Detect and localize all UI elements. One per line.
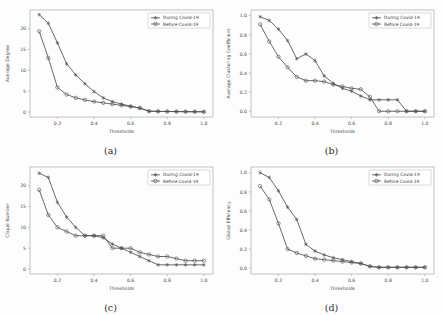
svg-text:0.6: 0.6 [240,209,247,214]
svg-text:15: 15 [20,204,26,209]
subplot-caption-c: (c) [0,302,221,313]
svg-text:Before Covid-19: Before Covid-19 [163,22,198,27]
svg-text:1.0: 1.0 [240,13,247,18]
subplot-caption-b: (b) [221,145,442,156]
svg-text:0.6: 0.6 [127,121,134,126]
svg-text:15: 15 [20,47,26,52]
subplot-caption-a: (a) [0,145,221,156]
svg-text:1.0: 1.0 [240,170,247,175]
plot-b: 0.20.40.60.81.00.00.20.40.60.81.0Thresho… [221,0,442,143]
svg-text:0.0: 0.0 [240,266,247,271]
svg-text:0.4: 0.4 [90,278,97,283]
svg-text:0.2: 0.2 [54,121,61,126]
svg-text:Thresholds: Thresholds [329,129,356,134]
svg-text:Before Covid-19: Before Covid-19 [384,22,419,27]
svg-text:Global Efficiency: Global Efficiency [226,201,231,240]
svg-text:0.6: 0.6 [240,52,247,57]
svg-text:Before Covid-19: Before Covid-19 [163,179,198,184]
svg-text:0.4: 0.4 [311,121,318,126]
svg-text:Thresholds: Thresholds [329,286,356,291]
plot-a: 0.20.40.60.81.005101520ThresholdsAverage… [0,0,221,143]
svg-text:During Covid-19: During Covid-19 [384,172,420,177]
svg-text:0.8: 0.8 [164,121,171,126]
svg-text:0.8: 0.8 [164,278,171,283]
plot-c: 0.20.40.60.81.005101520ThresholdsClique … [0,157,221,300]
svg-text:Clique Number: Clique Number [5,203,10,237]
subplot-caption-d: (d) [221,302,442,313]
svg-text:1.0: 1.0 [200,121,207,126]
figure-panel-grid: 0.20.40.60.81.005101520ThresholdsAverage… [0,0,443,315]
svg-text:0.0: 0.0 [240,109,247,114]
svg-text:10: 10 [20,225,26,230]
svg-text:5: 5 [23,246,26,251]
svg-text:0.4: 0.4 [311,278,318,283]
svg-text:Thresholds: Thresholds [108,286,135,291]
svg-text:0: 0 [23,110,26,115]
svg-text:0.8: 0.8 [240,33,247,38]
svg-text:0.6: 0.6 [348,278,355,283]
svg-text:Thresholds: Thresholds [108,129,135,134]
svg-text:5: 5 [23,89,26,94]
svg-text:Before Covid-19: Before Covid-19 [384,179,419,184]
svg-text:0.2: 0.2 [240,90,247,95]
svg-text:10: 10 [20,68,26,73]
svg-text:0.8: 0.8 [385,278,392,283]
svg-text:20: 20 [20,183,26,188]
svg-text:1.0: 1.0 [421,121,428,126]
svg-text:0.4: 0.4 [240,228,247,233]
panel-d: 0.20.40.60.81.00.00.20.40.60.81.0Thresho… [221,157,442,314]
svg-text:1.0: 1.0 [421,278,428,283]
panel-a: 0.20.40.60.81.005101520ThresholdsAverage… [0,0,221,157]
svg-text:0.6: 0.6 [348,121,355,126]
plot-d: 0.20.40.60.81.00.00.20.40.60.81.0Thresho… [221,157,442,300]
svg-text:Average Clustering Coefficient: Average Clustering Coefficient [226,28,231,98]
svg-text:0.8: 0.8 [385,121,392,126]
svg-text:1.0: 1.0 [200,278,207,283]
svg-text:Average Degree: Average Degree [5,45,10,82]
svg-text:0.4: 0.4 [90,121,97,126]
svg-text:During Covid-19: During Covid-19 [384,15,420,20]
svg-text:0.8: 0.8 [240,190,247,195]
svg-text:During Covid-19: During Covid-19 [163,15,199,20]
svg-text:0.2: 0.2 [240,247,247,252]
svg-text:20: 20 [20,26,26,31]
svg-text:0: 0 [23,267,26,272]
svg-text:0.2: 0.2 [275,278,282,283]
svg-text:0.2: 0.2 [54,278,61,283]
panel-b: 0.20.40.60.81.00.00.20.40.60.81.0Thresho… [221,0,442,157]
panel-c: 0.20.40.60.81.005101520ThresholdsClique … [0,157,221,314]
svg-text:During Covid-19: During Covid-19 [163,172,199,177]
svg-text:0.4: 0.4 [240,71,247,76]
svg-text:0.2: 0.2 [275,121,282,126]
svg-text:0.6: 0.6 [127,278,134,283]
